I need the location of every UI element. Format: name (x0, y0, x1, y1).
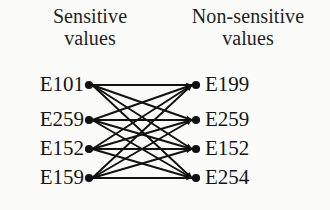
left-node-label: E101 (10, 74, 84, 95)
right-node-label: E199 (205, 74, 305, 95)
left-node-dot (85, 174, 93, 182)
left-node-dot (85, 145, 93, 153)
right-node-label: E254 (205, 167, 305, 188)
right-node-dot (192, 116, 200, 124)
arrowhead-layer (186, 83, 193, 181)
left-node-dot (85, 81, 93, 89)
bipartite-mapping-figure: Sensitive values Non-sensitive values E1… (0, 0, 330, 210)
left-node-label: E152 (10, 138, 84, 159)
left-node-label: E259 (10, 109, 84, 130)
left-node-dot (85, 116, 93, 124)
edge-layer (92, 85, 192, 178)
right-node-dot (192, 145, 200, 153)
right-node-dot (192, 174, 200, 182)
edge-arrowhead (186, 149, 193, 153)
right-node-label: E152 (205, 138, 305, 159)
left-node-label: E159 (10, 167, 84, 188)
right-node-label: E259 (205, 109, 305, 130)
right-node-dot (192, 81, 200, 89)
